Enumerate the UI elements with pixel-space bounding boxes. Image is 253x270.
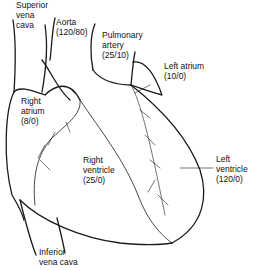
label-pulmonary-artery: Pulmonary artery (25/10) xyxy=(102,30,143,60)
right-coronary-branch-4 xyxy=(40,160,50,170)
label-aorta: Aorta (120/80) xyxy=(56,17,88,37)
superior-vena-cava-line xyxy=(13,20,15,92)
left-ventricle-outline xyxy=(131,85,204,243)
left-atrium-outline xyxy=(131,62,162,95)
inferior-vena-cava-left xyxy=(20,200,36,255)
right-coronary-branch-2 xyxy=(48,132,55,145)
label-left-atrium: Left atrium (10/0) xyxy=(164,61,204,81)
heart-inferior-border xyxy=(20,200,172,245)
label-superior-vena-cava: Superior vena cava xyxy=(16,0,48,30)
coronary-branch-2 xyxy=(145,135,155,145)
aorta-right-wall xyxy=(50,18,55,60)
label-right-ventricle: Right ventricle (25/0) xyxy=(83,155,115,185)
label-right-atrium: Right atrium (8/0) xyxy=(21,96,45,126)
label-inferior-vena-cava: Inferior vena cava xyxy=(39,247,78,267)
left-atrium-leader xyxy=(135,85,150,93)
pulmonary-trunk-base xyxy=(93,70,131,85)
coronary-artery-main xyxy=(131,85,165,215)
label-left-ventricle: Left ventricle (120/0) xyxy=(216,154,248,184)
heart-diagram: Superior vena cava Aorta (120/80) Pulmon… xyxy=(0,0,253,270)
coronary-branch-4 xyxy=(148,180,155,192)
pulmonary-artery-left-wall xyxy=(91,24,95,70)
right-coronary-branch-3 xyxy=(38,145,45,158)
coronary-branch-5 xyxy=(158,195,168,205)
aorta-left-wall xyxy=(42,25,46,92)
